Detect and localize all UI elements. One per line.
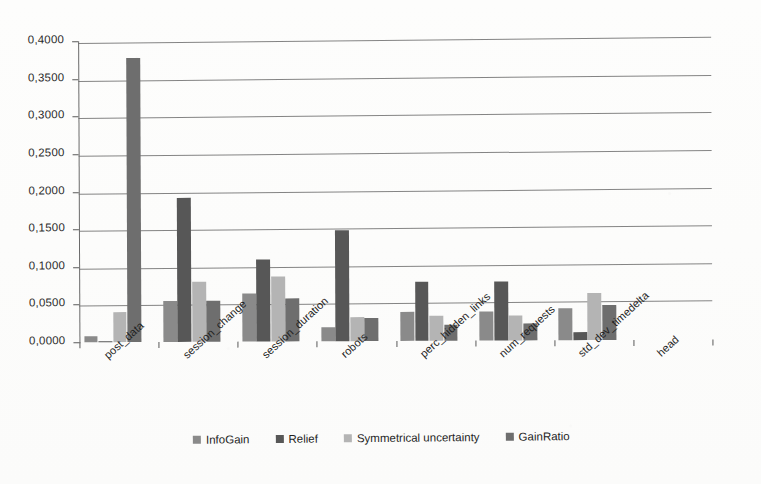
x-tick — [79, 342, 80, 348]
y-axis-label: 0,0000 — [7, 334, 65, 347]
bar — [559, 309, 573, 341]
bar — [163, 301, 177, 342]
bar — [242, 293, 256, 341]
y-axis-label: 0,4000 — [6, 33, 64, 46]
y-tick-marks-group — [0, 0, 760, 2]
y-axis-label: 0,2000 — [7, 184, 65, 197]
y-axis-label: 0,3500 — [6, 71, 64, 84]
bar — [321, 328, 335, 342]
x-tick — [633, 340, 634, 346]
legend-item: Symmetrical uncertainty — [344, 431, 480, 444]
y-axis-label: 0,1500 — [7, 221, 65, 234]
x-tick — [712, 340, 713, 346]
y-axis-labels-group: 0,00000,05000,10000,15000,20000,25000,30… — [0, 0, 760, 2]
y-axis-label: 0,0500 — [7, 297, 65, 310]
bar — [415, 282, 429, 341]
y-axis-label: 0,1000 — [7, 259, 65, 272]
legend-swatch-icon — [193, 436, 201, 444]
legend-label: Relief — [288, 433, 318, 445]
legend-item: Relief — [275, 433, 318, 445]
x-tick — [554, 340, 555, 346]
bar — [335, 230, 349, 341]
legend-item: GainRatio — [506, 430, 570, 443]
bar — [98, 341, 112, 342]
bar — [573, 333, 587, 341]
bar — [126, 58, 141, 342]
bar-chart: 0,00000,05000,10000,15000,20000,25000,30… — [0, 0, 761, 484]
bar — [256, 259, 270, 341]
legend-label: Symmetrical uncertainty — [357, 431, 480, 444]
x-tick — [475, 341, 476, 347]
legend-swatch-icon — [275, 435, 283, 443]
legend-item: InfoGain — [193, 433, 250, 446]
bar — [400, 312, 414, 341]
gridlines-group — [0, 0, 760, 2]
legend-label: GainRatio — [519, 430, 570, 442]
x-tick-marks-group — [0, 0, 760, 2]
y-axis-label: 0,2500 — [7, 146, 65, 159]
legend-swatch-icon — [344, 434, 352, 442]
y-axis-label: 0,3000 — [6, 108, 64, 121]
x-tick — [317, 341, 318, 347]
legend-swatch-icon — [506, 433, 514, 441]
plot-area — [78, 39, 712, 343]
x-tick — [159, 342, 160, 348]
bar — [84, 336, 98, 342]
bar — [494, 282, 508, 341]
x-tick — [396, 341, 397, 347]
x-axis-labels-group: post_datasession_changesession_durationr… — [0, 0, 760, 2]
x-tick — [238, 342, 239, 348]
legend-label: InfoGain — [206, 433, 250, 445]
bar — [479, 312, 493, 341]
bar — [177, 198, 192, 342]
